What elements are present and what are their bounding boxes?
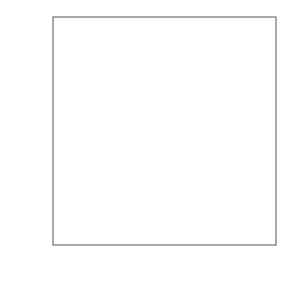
plot-frame <box>53 17 276 245</box>
chart <box>0 0 302 289</box>
